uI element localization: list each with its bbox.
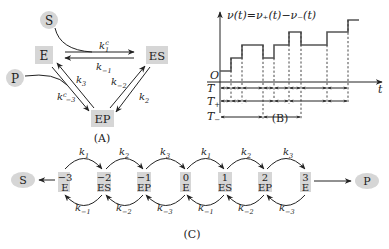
forward-rate-labels: k1 k2 k3 k1 k2 k3 — [79, 146, 293, 160]
state-m2: −2 ES — [97, 172, 112, 193]
chart-title: ν(t)=ν₊(t)−ν₋(t) — [227, 9, 316, 22]
chain-end-p: P — [355, 173, 379, 189]
chain-start-s: S — [11, 172, 35, 188]
state-m1: −1 EP — [137, 172, 152, 193]
arrow-s-merge — [55, 28, 92, 52]
chain-end-label: P — [363, 175, 371, 188]
panel-a: S E ES P EP — [6, 11, 168, 145]
rate-km3c: kc−3 — [57, 91, 75, 104]
node-s: S — [40, 11, 58, 29]
node-s-label: S — [45, 14, 53, 28]
svg-text:ES: ES — [97, 182, 111, 193]
svg-text:E: E — [61, 182, 68, 193]
node-ep: EP — [91, 110, 114, 127]
arrow-e-to-ep — [52, 67, 89, 111]
forward-arcs — [65, 159, 305, 170]
state-0: 0 E — [180, 172, 191, 193]
rate-k2: k2 — [139, 91, 149, 105]
node-es-label: ES — [149, 49, 165, 63]
node-p: P — [6, 69, 24, 87]
svg-text:k1: k1 — [79, 146, 89, 160]
svg-text:E: E — [182, 182, 189, 193]
node-es: ES — [146, 46, 168, 64]
arrow-p-merge — [25, 75, 67, 85]
figure-canvas: S E ES P EP — [0, 0, 389, 249]
svg-text:ES: ES — [218, 182, 232, 193]
node-e-label: E — [40, 49, 49, 63]
step-function-line — [220, 20, 359, 71]
rate-km1: k−1 — [96, 61, 112, 75]
caption-c: (C) — [184, 228, 201, 241]
caption-a: (A) — [94, 132, 111, 145]
caption-b: (B) — [272, 112, 289, 125]
chain-start-label: S — [19, 174, 27, 187]
rate-km2: k−2 — [111, 76, 127, 90]
rate-k1c: k1c — [99, 39, 109, 54]
origin-label: O — [210, 69, 219, 82]
state-3: 3 E — [300, 172, 311, 193]
backward-arcs — [65, 195, 305, 206]
svg-text:k3: k3 — [283, 146, 293, 160]
arrow-es-to-ep — [116, 67, 150, 112]
x-axis-label: t — [378, 83, 383, 96]
svg-text:k3: k3 — [160, 146, 170, 160]
node-p-label: P — [11, 72, 19, 86]
state-2: 2 EP — [258, 172, 272, 193]
svg-text:k1: k1 — [201, 146, 211, 160]
svg-text:E: E — [302, 182, 309, 193]
node-ep-label: EP — [94, 112, 110, 126]
svg-text:k−3: k−3 — [157, 202, 173, 216]
svg-text:k−1: k−1 — [75, 202, 91, 216]
svg-text:k2: k2 — [119, 146, 129, 160]
svg-text:k2: k2 — [241, 146, 251, 160]
row-label-tplus: T+ — [207, 95, 220, 109]
svg-text:k−2: k−2 — [116, 202, 132, 216]
state-1: 1 ES — [218, 172, 232, 193]
state-m3: −3 E — [58, 172, 73, 193]
svg-text:EP: EP — [137, 182, 151, 193]
panel-c: S P −3 E −2 ES −1 EP 0 E — [11, 146, 379, 241]
row-label-tminus: T− — [207, 110, 220, 124]
node-e: E — [35, 46, 53, 64]
rate-k3: k3 — [76, 74, 86, 88]
row-label-t: T — [207, 82, 216, 95]
panel-b: ν(t)=ν₊(t)−ν₋(t) O t T T+ T− — [207, 9, 383, 125]
svg-text:EP: EP — [258, 182, 272, 193]
backward-rate-labels: k−1 k−2 k−3 k−1 k−2 k−3 — [75, 202, 295, 216]
